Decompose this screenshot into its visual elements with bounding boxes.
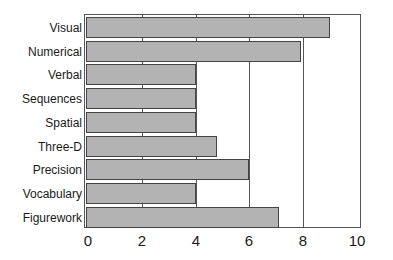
category-label: Vocabulary (23, 187, 82, 201)
x-tick-label: 8 (299, 232, 307, 250)
bar-vocabulary (86, 183, 196, 204)
gridline-8 (303, 14, 304, 228)
category-label: Visual (50, 21, 82, 35)
category-label: Precision (33, 163, 82, 177)
category-label: Figurework (23, 211, 82, 225)
x-tick-label: 2 (138, 232, 146, 250)
category-label: Sequences (22, 92, 82, 106)
bar-figurework (86, 207, 279, 228)
horizontal-bar-chart: VisualNumericalVerbalSequencesSpatialThr… (0, 0, 393, 260)
category-label: Verbal (48, 68, 82, 82)
bar-visual (86, 17, 330, 38)
x-tick-label: 0 (84, 232, 92, 250)
bar-spatial (86, 112, 196, 133)
category-label: Numerical (28, 45, 82, 59)
bar-precision (86, 159, 249, 180)
bar-verbal (86, 64, 196, 85)
category-label: Spatial (45, 116, 82, 130)
bar-three-d (86, 136, 217, 157)
bar-sequences (86, 88, 196, 109)
x-tick-label: 4 (192, 232, 200, 250)
x-tick-label: 10 (349, 232, 366, 250)
x-tick-label: 6 (245, 232, 253, 250)
category-label: Three-D (38, 140, 82, 154)
bar-numerical (86, 41, 301, 62)
